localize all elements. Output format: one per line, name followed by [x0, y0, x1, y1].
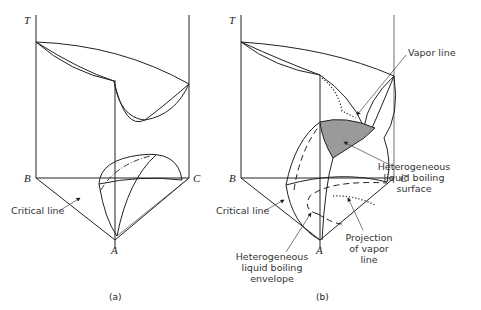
hlb-surface-label-2: liquid boiling: [384, 172, 445, 183]
dome-right-base: [117, 178, 189, 236]
dome-base-arc: [99, 178, 182, 184]
projection-label-2: of vapor: [349, 243, 388, 254]
dome-left-edge: [99, 184, 117, 236]
ba-lower-curve: [36, 42, 114, 81]
dome-left-edge: [286, 185, 320, 240]
critical-line-label-b: Critical line: [216, 205, 270, 216]
panel-b: T B C A Vapor line Heterogeneous liquid …: [216, 14, 456, 302]
critical-line-a: [101, 156, 150, 190]
vapor-line-dotted: [322, 78, 356, 118]
envelope-dashed-projection: [307, 183, 387, 214]
ba-upper-curve: [36, 42, 114, 81]
dome-outline: [99, 154, 182, 184]
vapor-line-label: Vapor line: [408, 47, 456, 58]
hlb-surface-label-1: Heterogeneous: [378, 161, 451, 172]
critical-line-label-a: Critical line: [11, 205, 65, 216]
axis-label-b: B: [24, 172, 31, 184]
projection-arrow: [348, 198, 363, 230]
axis-label-a: A: [110, 244, 118, 256]
axis-label-t: T: [24, 14, 31, 26]
projection-vapor-line: [333, 196, 375, 205]
hlb-surface-arrow: [344, 142, 392, 166]
caption-b: (b): [316, 292, 329, 302]
ternary-phase-diagram: T B C A Critical line (a): [0, 0, 481, 310]
hlb-envelope-label-3: envelope: [250, 273, 294, 284]
panel-a: T B C A Critical line (a): [11, 14, 201, 302]
axis-label-c: C: [193, 172, 201, 184]
bc-upper-curve: [36, 42, 189, 84]
caption-a: (a): [109, 292, 122, 302]
dome-front-arc: [322, 158, 333, 240]
hlb-surface-label-3: surface: [396, 183, 431, 194]
projection-label-3: line: [360, 254, 377, 265]
axis-label-t: T: [229, 14, 236, 26]
heterogeneous-liquid-boiling-surface: [320, 120, 375, 158]
base-ac: [320, 178, 394, 240]
bc-upper-curve: [241, 42, 394, 76]
projection-label-1: Projection: [346, 232, 393, 243]
c-branch-2: [372, 76, 394, 128]
ba-upper-curve: [241, 42, 320, 75]
axis-label-a: A: [315, 244, 323, 256]
ac-curve-2: [114, 81, 189, 120]
dome-front-arc: [117, 155, 156, 236]
axis-label-b: B: [229, 172, 236, 184]
hlb-envelope-arrow: [286, 213, 311, 252]
c-branch-1: [364, 76, 394, 127]
hlb-envelope-label-2: liquid boiling: [242, 262, 303, 273]
hlb-envelope-label-1: Heterogeneous: [236, 251, 309, 262]
